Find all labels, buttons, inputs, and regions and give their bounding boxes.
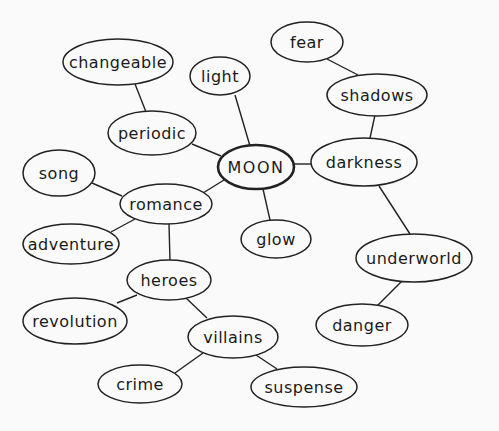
edge-villains-crime	[175, 353, 203, 373]
node-revolution: revolution	[23, 298, 127, 344]
node-label: shadows	[340, 86, 413, 105]
node-glow: glow	[241, 220, 311, 258]
edge-moon-glow	[263, 189, 270, 220]
node-label: periodic	[118, 124, 186, 143]
node-label: adventure	[28, 235, 114, 254]
node-periodic: periodic	[108, 111, 196, 155]
node-label: light	[201, 67, 239, 86]
edge-periodic-changeable	[135, 84, 146, 112]
edge-darkness-shadows	[370, 115, 375, 138]
node-label: song	[39, 164, 79, 183]
node-label: revolution	[32, 312, 118, 331]
node-underworld: underworld	[356, 234, 472, 282]
node-label: darkness	[326, 153, 402, 172]
edge-moon-periodic	[192, 144, 221, 156]
node-song: song	[23, 150, 95, 196]
edge-moon-romance	[203, 180, 224, 193]
edge-romance-heroes	[169, 224, 170, 261]
node-darkness: darkness	[311, 138, 417, 186]
node-label: heroes	[140, 271, 197, 290]
node-label: romance	[129, 195, 203, 214]
node-fear: fear	[271, 22, 343, 62]
node-suspense: suspense	[251, 367, 357, 407]
node-label: crime	[116, 375, 164, 394]
node-label: fear	[290, 33, 324, 52]
mind-map-diagram: MOONlightperiodicchangeableromancesongad…	[0, 0, 499, 431]
edge-romance-adventure	[111, 219, 135, 232]
edge-romance-song	[92, 183, 122, 196]
edge-moon-light	[235, 95, 250, 146]
node-shadows: shadows	[327, 74, 427, 116]
node-label: MOON	[228, 158, 285, 177]
node-light: light	[190, 57, 250, 95]
edge-darkness-underworld	[379, 186, 410, 234]
edge-villains-suspense	[256, 355, 277, 369]
node-label: villains	[203, 328, 263, 347]
node-label: suspense	[264, 378, 343, 397]
node-romance: romance	[120, 184, 212, 224]
node-danger: danger	[316, 304, 408, 346]
nodes-layer: MOONlightperiodicchangeableromancesongad…	[23, 22, 472, 407]
node-label: underworld	[366, 249, 462, 268]
node-adventure: adventure	[23, 224, 119, 264]
node-villains: villains	[188, 316, 278, 358]
node-label: changeable	[69, 53, 167, 72]
node-changeable: changeable	[63, 39, 173, 85]
node-heroes: heroes	[127, 260, 211, 300]
node-moon: MOON	[218, 145, 294, 189]
node-label: glow	[256, 230, 295, 249]
edge-underworld-danger	[377, 281, 402, 306]
edge-heroes-villains	[186, 298, 207, 318]
edge-shadows-fear	[327, 59, 358, 75]
edge-heroes-revolution	[117, 295, 137, 303]
node-label: danger	[332, 316, 392, 335]
node-crime: crime	[98, 365, 182, 403]
